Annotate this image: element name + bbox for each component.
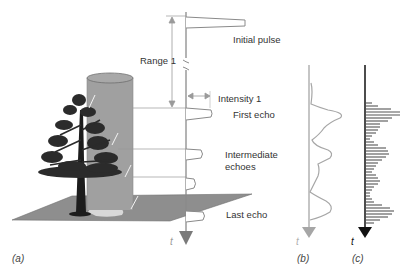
intermediate-echo-2-shape (186, 178, 196, 190)
lidar-waveform-diagram (0, 0, 410, 271)
last-echo-shape (186, 211, 205, 222)
first-echo-shape (186, 108, 212, 120)
label-intensity: Intensity 1 (218, 93, 261, 104)
label-intermediate-line1: Intermediate (225, 149, 278, 160)
label-initial-pulse: Initial pulse (233, 34, 281, 45)
intensity-arrow (188, 91, 210, 108)
intermediate-echo-1-shape (186, 149, 203, 160)
panel-b-waveform (302, 65, 342, 238)
axis-b-arrowhead-icon (302, 227, 316, 238)
label-first-echo: First echo (233, 109, 275, 120)
caption-a: (a) (12, 253, 24, 264)
label-last-echo: Last echo (226, 209, 267, 220)
caption-c: (c) (352, 253, 364, 264)
caption-b: (b) (297, 253, 309, 264)
panel-c-waveform (358, 65, 400, 238)
axis-arrowhead-icon (179, 231, 193, 245)
label-range: Range 1 (140, 55, 176, 66)
time-label-a: t (170, 236, 173, 247)
initial-pulse-shape (186, 17, 245, 28)
label-intermediate-line2: echoes (225, 161, 256, 172)
axis-c-arrowhead-icon (358, 227, 372, 238)
time-label-b: t (296, 236, 299, 247)
time-label-c: t (351, 236, 354, 247)
